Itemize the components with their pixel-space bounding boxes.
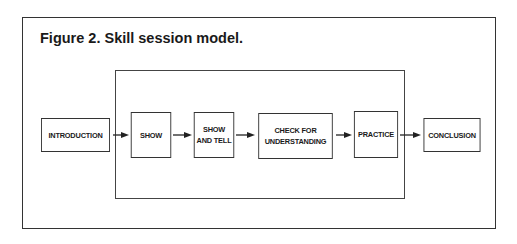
arrow-show-to-show-and-tell	[173, 132, 192, 138]
arrow-practice-to-conclusion	[400, 132, 421, 138]
arrow-introduction-to-show	[113, 132, 129, 138]
flow-arrows	[0, 0, 517, 244]
arrow-check-to-practice	[336, 132, 352, 138]
arrow-show-and-tell-to-check	[236, 132, 255, 138]
